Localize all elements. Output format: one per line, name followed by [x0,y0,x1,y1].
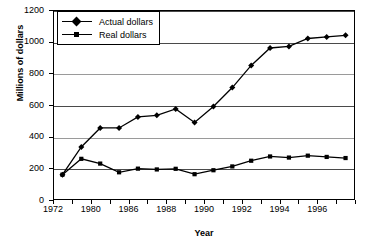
data-point [79,157,83,161]
x-tick-label-1986: 1986 [109,205,149,214]
y-tick-label-1200: 1200 [6,6,44,15]
x-tick-mark-9 [223,200,224,204]
square-marker-icon [62,29,92,41]
data-point [287,155,291,159]
y-tick-label-800: 800 [6,69,44,78]
data-point [268,154,272,158]
data-point [325,155,329,159]
data-point [154,112,160,118]
data-point [174,167,178,171]
line-chart: Millions of dollars 02004006008001000120… [0,0,367,249]
x-tick-label-1988: 1988 [146,205,186,214]
data-point [211,168,215,172]
data-point [117,170,121,174]
legend-label-real-dollars: Real dollars [92,30,147,40]
x-tick-mark-11 [261,200,262,204]
x-tick-label-1994: 1994 [260,205,300,214]
y-tick-label-200: 200 [6,164,44,173]
legend-item-actual-dollars: Actual dollars [62,15,153,28]
data-point [60,173,64,177]
y-tick-label-600: 600 [6,101,44,110]
y-tick-label-1000: 1000 [6,37,44,46]
legend-label-actual-dollars: Actual dollars [92,17,153,27]
data-point [155,167,159,171]
x-tick-mark-16 [355,200,356,204]
data-point [249,159,253,163]
x-tick-mark-3 [110,200,111,204]
data-point [343,156,347,160]
x-tick-mark-15 [336,200,337,204]
data-point [116,125,122,131]
y-tick-label-400: 400 [6,132,44,141]
x-tick-label-1996: 1996 [297,205,337,214]
x-tick-label-1990: 1990 [184,205,224,214]
legend-item-real-dollars: Real dollars [62,28,153,41]
x-tick-label-1972: 1972 [33,205,73,214]
data-point [286,43,292,49]
series-line [62,35,345,174]
chart-legend: Actual dollars Real dollars [57,11,160,45]
x-axis-title: Year [53,228,355,238]
diamond-marker-icon [62,16,92,28]
data-point [192,172,196,176]
data-point [306,154,310,158]
x-tick-label-1992: 1992 [222,205,262,214]
series-line [62,156,345,175]
series-real-dollars [60,154,347,177]
data-point [305,36,311,42]
x-tick-mark-7 [185,200,186,204]
y-axis-title: Millions of dollars [15,0,25,133]
x-tick-mark-13 [298,200,299,204]
x-tick-mark-5 [147,200,148,204]
data-point [98,161,102,165]
x-tick-label-1980: 1980 [71,205,111,214]
data-point [135,114,141,120]
data-point [136,167,140,171]
data-point [343,32,349,38]
data-point [324,34,330,40]
x-tick-mark-1 [72,200,73,204]
data-point [230,164,234,168]
y-tick-label-0: 0 [6,196,44,205]
